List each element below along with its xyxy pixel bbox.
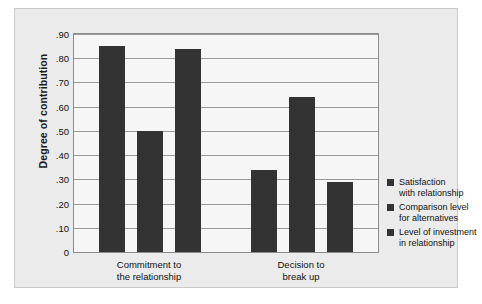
bar: [251, 170, 277, 252]
y-axis-tick-label: .50: [56, 125, 69, 136]
y-axis-tick-label: .60: [56, 101, 69, 112]
gridline: [74, 34, 378, 35]
legend-label-line: for alternatives: [399, 213, 469, 224]
legend-item: Level of investmentin relationship: [387, 227, 482, 248]
plot-area: .90.80.70.60.50.40.30.20.100: [73, 33, 379, 253]
legend-item: Satisfactionwith relationship: [387, 177, 482, 198]
y-axis-tick-label: .90: [56, 29, 69, 40]
legend-label-line: Comparison level: [399, 202, 469, 213]
y-axis-title: Degree of contribution: [37, 21, 49, 201]
bar: [327, 182, 353, 252]
x-axis-label-line: Decision to: [278, 259, 325, 271]
y-axis-tick-label: .80: [56, 53, 69, 64]
legend-label-line: with relationship: [399, 188, 464, 199]
legend-label: Comparison levelfor alternatives: [399, 202, 469, 223]
legend-swatch-icon: [387, 229, 394, 236]
legend-label-line: in relationship: [399, 238, 477, 249]
x-axis-label-line: the relationship: [117, 271, 181, 283]
y-axis-tick-label: .30: [56, 174, 69, 185]
legend-label-line: Satisfaction: [399, 177, 464, 188]
legend-swatch-icon: [387, 179, 394, 186]
legend-item: Comparison levelfor alternatives: [387, 202, 482, 223]
y-axis-tick-label: 0: [64, 247, 69, 258]
legend: Satisfactionwith relationshipComparison …: [387, 177, 482, 252]
legend-swatch-icon: [387, 204, 394, 211]
legend-label: Level of investmentin relationship: [399, 227, 477, 248]
x-axis-group-label: Decision tobreak up: [278, 259, 325, 282]
x-axis-label-line: break up: [278, 271, 325, 283]
y-axis-tick-label: .40: [56, 150, 69, 161]
x-axis-group-label: Commitment tothe relationship: [117, 259, 181, 282]
bar: [289, 97, 315, 252]
legend-label-line: Level of investment: [399, 227, 477, 238]
x-axis-label-line: Commitment to: [117, 259, 181, 271]
y-axis-tick-label: .10: [56, 222, 69, 233]
y-axis-tick-label: .70: [56, 77, 69, 88]
legend-label: Satisfactionwith relationship: [399, 177, 464, 198]
bar: [137, 131, 163, 252]
bar: [99, 46, 125, 252]
chart-panel: Degree of contribution .90.80.70.60.50.4…: [14, 8, 458, 288]
bar: [175, 49, 201, 252]
y-axis-tick-label: .20: [56, 198, 69, 209]
